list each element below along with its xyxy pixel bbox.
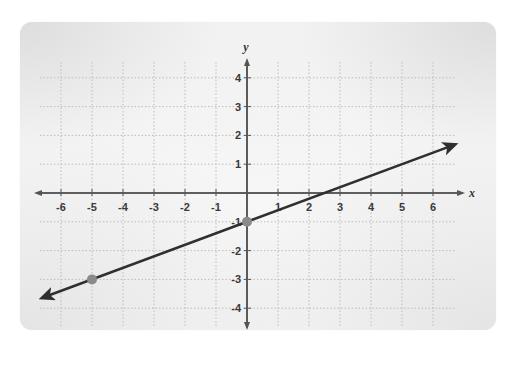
y-tick-label: -2 (231, 245, 241, 257)
line-right-segment (247, 145, 455, 222)
x-tick-label: 2 (306, 201, 312, 213)
x-tick-label: 6 (430, 201, 436, 213)
x-tick-label: -4 (118, 201, 129, 213)
y-axis-label: y (241, 40, 249, 54)
y-tick-label: -3 (231, 273, 241, 285)
data-point (87, 274, 97, 284)
x-tick-label: 3 (337, 201, 343, 213)
x-tick-label: -3 (149, 201, 159, 213)
x-tick-label: 5 (399, 201, 405, 213)
x-tick-label: -6 (56, 201, 66, 213)
y-tick-label: 4 (235, 72, 242, 84)
x-tick-label: -2 (180, 201, 190, 213)
y-tick-label: 3 (235, 101, 241, 113)
x-tick-label: 4 (368, 201, 375, 213)
y-tick-label: 2 (235, 129, 241, 141)
x-axis-label: x (468, 186, 475, 200)
data-point (242, 217, 252, 227)
axes: xy (36, 40, 475, 328)
y-tick-label: 1 (235, 158, 241, 170)
coordinate-plane: xy -6-5-4-3-2-11234564321-1-2-3-4 (0, 0, 515, 365)
y-tick-label: -4 (231, 302, 242, 314)
grid-lines (40, 62, 456, 326)
x-tick-label: -1 (211, 201, 221, 213)
x-tick-label: -5 (87, 201, 97, 213)
